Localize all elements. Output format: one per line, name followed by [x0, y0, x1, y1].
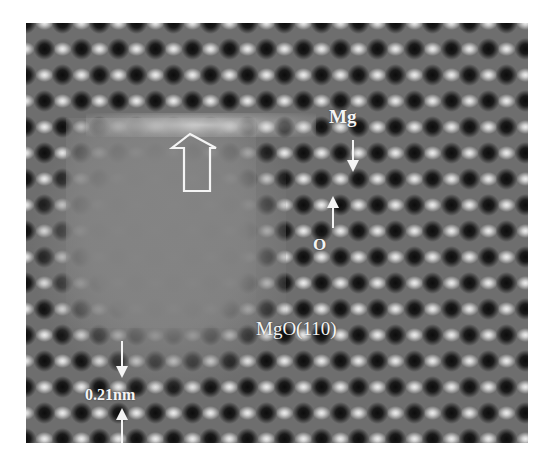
plane-label: MgO(110) — [256, 318, 337, 340]
hrtem-image — [26, 23, 528, 443]
amorphous-region-core — [66, 118, 256, 328]
o-label: O — [313, 235, 326, 255]
interface-bright-band — [86, 113, 316, 137]
scale-label: 0.21nm — [85, 386, 135, 404]
mg-label: Mg — [329, 106, 356, 128]
